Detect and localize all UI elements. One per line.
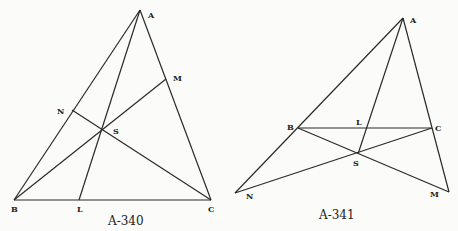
segment-cn xyxy=(235,128,432,193)
point-label-m: M xyxy=(173,73,182,83)
point-label-l: L xyxy=(356,117,362,127)
segment-bm xyxy=(298,128,449,192)
point-label-s: S xyxy=(353,158,359,168)
side-an xyxy=(235,18,403,193)
point-label-s: S xyxy=(113,126,119,136)
cevian-bm xyxy=(14,79,166,200)
point-label-b: B xyxy=(287,122,294,132)
cevian-al xyxy=(79,10,140,200)
point-label-l: L xyxy=(77,204,83,214)
point-label-b: B xyxy=(11,204,18,214)
figure-caption: A-340 xyxy=(107,214,144,228)
point-label-a: A xyxy=(409,15,417,25)
point-label-n: N xyxy=(57,106,64,116)
geometry-figures: A B C L M N S A-340 A B C L S N M A-341 xyxy=(0,0,458,231)
point-label-a: A xyxy=(147,10,155,20)
figure-caption: A-341 xyxy=(318,208,355,222)
side-am xyxy=(403,18,449,192)
point-label-m: M xyxy=(430,189,439,199)
figure-a340: A B C L M N S A-340 xyxy=(11,10,214,228)
side-ab xyxy=(14,10,140,200)
side-ac xyxy=(140,10,211,200)
point-label-n: N xyxy=(246,191,253,201)
segment-as xyxy=(358,18,403,154)
point-label-c: C xyxy=(208,204,214,214)
figure-a341: A B C L S N M A-341 xyxy=(235,15,449,222)
point-label-c: C xyxy=(435,123,441,133)
